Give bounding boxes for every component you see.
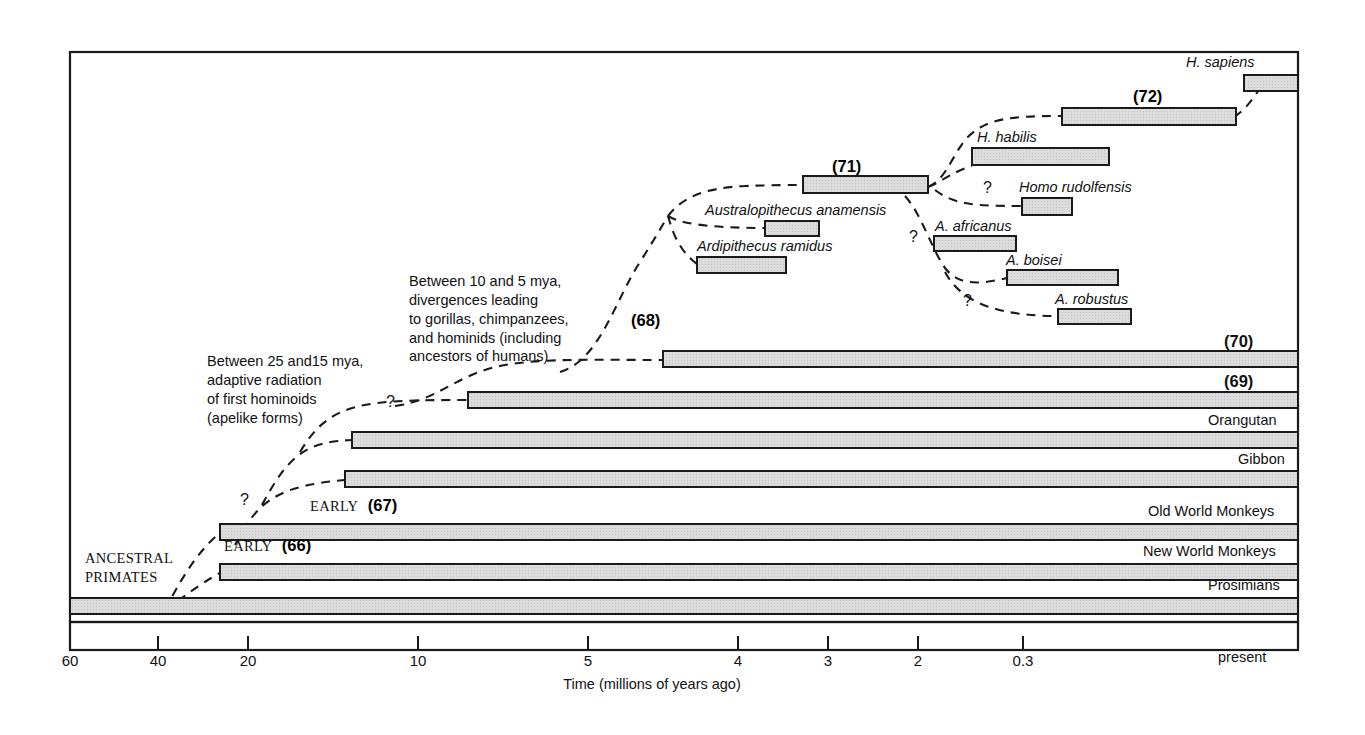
- bar-new-world-monkeys: [220, 564, 1298, 580]
- label-old-world-monkeys: Old World Monkeys: [1148, 503, 1274, 521]
- label-gibbon: Gibbon: [1238, 451, 1285, 469]
- label-prosimians: Prosimians: [1208, 577, 1280, 595]
- label-68: (68): [631, 310, 660, 330]
- axis-tick-3: 3: [824, 652, 832, 669]
- label-71: (71): [832, 156, 861, 176]
- label-early-67-word: EARLY: [310, 498, 358, 514]
- label-a-robustus: A. robustus: [1055, 291, 1128, 309]
- axis-ticks: [158, 636, 1023, 650]
- label-ardipithecus: Ardipithecus ramidus: [697, 238, 832, 256]
- bar-h-sapiens: [1244, 75, 1298, 91]
- axis-present-label: present: [1218, 649, 1266, 665]
- bar-h-habilis: [972, 148, 1109, 165]
- axis-tick-40: 40: [150, 652, 167, 669]
- label-early-67: EARLY (67): [310, 495, 397, 516]
- label-h-rudolfensis: Homo rudolfensis: [1019, 179, 1132, 197]
- question-mark-africanus: ?: [909, 227, 918, 247]
- question-mark-robustus: ?: [963, 291, 972, 311]
- axis-title: Time (millions of years ago): [563, 676, 741, 692]
- label-69: (69): [1224, 371, 1253, 391]
- axis-tick-60: 60: [62, 652, 79, 669]
- label-70: (70): [1224, 331, 1253, 351]
- range-bars: [70, 75, 1298, 614]
- label-early-66-num: (66): [282, 536, 311, 554]
- bar-72: [1062, 108, 1236, 125]
- label-a-africanus: A. africanus: [935, 218, 1012, 236]
- axis-tick-5: 5: [584, 652, 592, 669]
- bar-69: [468, 392, 1298, 408]
- label-early-67-num: (67): [368, 496, 397, 514]
- bar-gibbon: [345, 471, 1298, 487]
- bar-prosimians: [70, 598, 1298, 614]
- figure-canvas: H. sapiens (72) H. habilis Homo rudolfen…: [0, 0, 1365, 735]
- bar-h-rudolfensis: [1022, 198, 1072, 215]
- branch-71-to-rudolfensis: [935, 190, 1022, 206]
- bar-a-robustus: [1058, 309, 1131, 324]
- branch-68-stem: [560, 216, 668, 372]
- bar-71: [803, 176, 928, 193]
- branch-71-to-habilis: [928, 166, 972, 187]
- axis-tick-0.3: 0.3: [1013, 652, 1034, 669]
- phylogeny-diagram: [0, 0, 1365, 735]
- label-h-habilis: H. habilis: [977, 129, 1037, 147]
- axis-box: [70, 622, 1298, 650]
- label-a-anamensis: Australopithecus anamensis: [705, 202, 886, 220]
- bar-a-boisei: [1007, 270, 1118, 285]
- axis-tick-10: 10: [410, 652, 427, 669]
- note-divergence: Between 10 and 5 mya, divergences leadin…: [409, 272, 569, 366]
- label-orangutan: Orangutan: [1208, 412, 1277, 430]
- label-early-66: EARLY (66): [224, 535, 311, 556]
- question-mark-root: ?: [240, 490, 249, 510]
- bar-a-anamensis: [765, 221, 819, 236]
- bar-orangutan: [352, 432, 1298, 448]
- label-ancestral-primates: ANCESTRAL PRIMATES: [85, 549, 173, 587]
- label-72: (72): [1133, 86, 1162, 106]
- bar-ardipithecus: [697, 257, 786, 273]
- label-new-world-monkeys: New World Monkeys: [1143, 543, 1276, 561]
- label-early-66-word: EARLY: [224, 538, 272, 554]
- label-h-sapiens: H. sapiens: [1186, 54, 1255, 72]
- bar-old-world-monkeys: [220, 524, 1298, 540]
- label-a-boisei: A. boisei: [1006, 252, 1062, 270]
- note-hominoids: Between 25 and15 mya, adaptive radiation…: [207, 352, 363, 427]
- bar-a-africanus: [934, 236, 1016, 251]
- axis-tick-4: 4: [734, 652, 742, 669]
- bar-70: [663, 351, 1298, 367]
- branch-to-ardipithecus: [668, 216, 697, 264]
- question-mark-rudolfensis: ?: [983, 178, 992, 198]
- axis-tick-2: 2: [914, 652, 922, 669]
- question-mark-69: ?: [386, 392, 395, 412]
- axis-tick-20: 20: [240, 652, 257, 669]
